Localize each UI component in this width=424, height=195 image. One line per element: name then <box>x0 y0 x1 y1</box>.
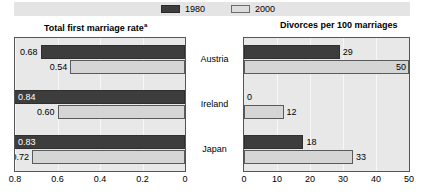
category-label-japan: Japan <box>186 127 243 172</box>
bar-row: 0 <box>244 90 409 104</box>
bar-value-japan-1980: 18 <box>306 135 316 149</box>
bar-japan-1980 <box>244 135 303 149</box>
panel-title-left: Total first marriage ratea <box>44 20 147 34</box>
bar-row: 18 <box>244 135 409 149</box>
category-label-ireland: Ireland <box>186 82 243 127</box>
legend-swatch-1980 <box>161 5 180 13</box>
x-tick-label: 50 <box>404 174 414 185</box>
bar-group-japan: 0.830.72 <box>15 128 185 171</box>
x-axis-left: 0.80.60.40.20 <box>14 174 186 188</box>
bar-group-japan: 1833 <box>244 128 409 171</box>
bar-ireland-2000 <box>244 105 284 119</box>
bar-group-austria: 2950 <box>244 38 409 83</box>
x-tick-label: 30 <box>338 174 348 185</box>
bar-group-austria: 0.680.54 <box>15 38 185 83</box>
bar-row: 33 <box>244 150 409 164</box>
bar-ireland-2000 <box>58 105 186 119</box>
panel-title-right: Divorces per 100 marriages <box>280 20 398 31</box>
bar-row: 0.84 <box>15 90 185 104</box>
category-labels: Austria Ireland Japan <box>186 37 243 172</box>
chart-panel-marriage-rate: 0.680.540.840.600.830.72 <box>14 37 186 172</box>
x-tick-label: 0.2 <box>136 174 149 185</box>
legend-label-2000: 2000 <box>255 5 275 14</box>
bar-value-austria-2000: 50 <box>396 60 406 74</box>
bar-japan-1980 <box>15 135 185 149</box>
x-tick-label: 0 <box>182 174 187 185</box>
x-tick-label: 0 <box>241 174 246 185</box>
legend-entry-2000: 2000 <box>231 2 275 16</box>
bar-ireland-1980 <box>15 90 185 104</box>
bar-austria-2000 <box>70 60 185 74</box>
bar-row: 0.60 <box>15 105 185 119</box>
bar-value-ireland-1980: 0.84 <box>18 90 36 104</box>
bar-group-ireland: 0.840.60 <box>15 83 185 128</box>
bar-value-japan-2000: 0.72 <box>15 150 29 164</box>
bar-value-austria-2000: 0.54 <box>50 60 68 74</box>
x-tick-label: 0.4 <box>94 174 107 185</box>
bar-value-austria-1980: 0.68 <box>20 45 38 59</box>
panel-title-left-footnote-marker: a <box>144 22 147 28</box>
bar-row: 0.54 <box>15 60 185 74</box>
bar-value-ireland-2000: 12 <box>287 105 297 119</box>
bar-row: 29 <box>244 45 409 59</box>
bar-row: 0.68 <box>15 45 185 59</box>
bar-group-ireland: 012 <box>244 83 409 128</box>
legend-entry-1980: 1980 <box>161 2 205 16</box>
plot-area-right: 29500121833 <box>244 38 409 171</box>
x-tick-label: 40 <box>371 174 381 185</box>
bar-row: 12 <box>244 105 409 119</box>
x-axis-right: 01020304050 <box>243 174 410 188</box>
x-tick-label: 10 <box>272 174 282 185</box>
bar-value-ireland-2000: 0.60 <box>37 105 55 119</box>
chart-panel-divorces: 29500121833 <box>243 37 410 172</box>
bar-value-japan-2000: 33 <box>356 150 366 164</box>
bar-row: 0.83 <box>15 135 185 149</box>
bar-value-ireland-1980: 0 <box>247 90 252 104</box>
legend-swatch-2000 <box>231 5 250 13</box>
legend-label-1980: 1980 <box>185 5 205 14</box>
bar-japan-2000 <box>244 150 353 164</box>
plot-area-left: 0.680.540.840.600.830.72 <box>15 38 185 171</box>
panel-title-left-text: Total first marriage rate <box>44 23 144 33</box>
x-tick-label: 20 <box>305 174 315 185</box>
panel-title-right-text: Divorces per 100 marriages <box>280 20 398 30</box>
bar-austria-1980 <box>244 45 340 59</box>
bar-row: 0.72 <box>15 150 185 164</box>
x-tick-label: 0.8 <box>9 174 22 185</box>
bar-row: 50 <box>244 60 409 74</box>
category-label-austria: Austria <box>186 37 243 82</box>
bar-value-japan-1980: 0.83 <box>18 135 36 149</box>
bar-austria-1980 <box>41 45 186 59</box>
bar-value-austria-1980: 29 <box>343 45 353 59</box>
x-tick-label: 0.6 <box>51 174 64 185</box>
bar-austria-2000 <box>244 60 409 74</box>
legend: 1980 2000 <box>14 2 410 16</box>
bar-japan-2000 <box>32 150 185 164</box>
